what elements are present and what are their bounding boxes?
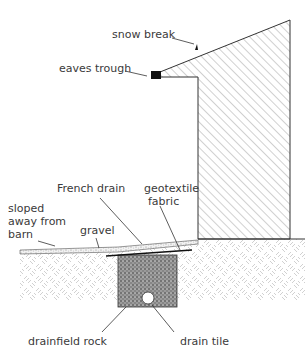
label-gravel: gravel: [80, 224, 115, 237]
label-french-drain: French drain: [57, 182, 125, 195]
label-snow-break: snow break: [112, 28, 176, 41]
label-fabric: fabric: [148, 195, 179, 208]
drain-tile: [142, 292, 154, 304]
drainage-diagram: snow break eaves trough French drain geo…: [0, 0, 305, 351]
label-barn: barn: [8, 228, 33, 241]
label-sloped: sloped: [8, 202, 44, 215]
label-away-from: away from: [8, 215, 66, 228]
label-eaves-trough: eaves trough: [59, 62, 131, 75]
label-geotextile: geotextile: [144, 182, 199, 195]
barn-wall: [160, 20, 290, 239]
label-drain-tile: drain tile: [180, 335, 229, 348]
eaves-trough: [151, 71, 161, 79]
snow-break: [195, 44, 198, 50]
label-drainfield-rock: drainfield rock: [28, 335, 108, 348]
